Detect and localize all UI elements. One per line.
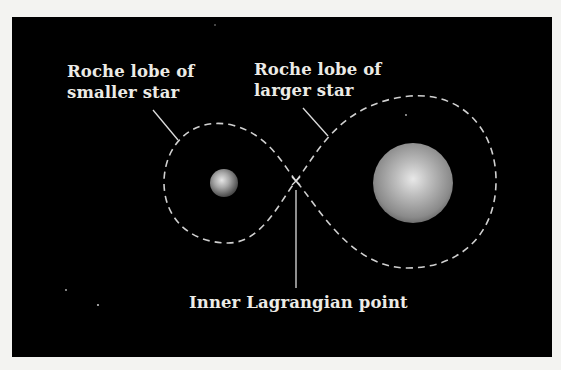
label-line-2: smaller star [67, 82, 194, 103]
label-line-1: Roche lobe of [67, 61, 194, 82]
larger-star [373, 143, 453, 223]
label-line-1: Roche lobe of [254, 59, 381, 80]
label-text: Inner Lagrangian point [189, 292, 408, 313]
label-inner-lagrangian-point: Inner Lagrangian point [189, 292, 408, 313]
inner-lagrangian-point-marker [292, 177, 300, 185]
roche-lobe-diagram [0, 0, 561, 370]
leader-line-larger-lobe [303, 108, 328, 136]
leader-line-smaller-lobe [153, 110, 178, 140]
leader-lines [153, 108, 328, 288]
label-roche-lobe-larger-star: Roche lobe of larger star [254, 59, 381, 101]
label-line-2: larger star [254, 80, 381, 101]
label-roche-lobe-smaller-star: Roche lobe of smaller star [67, 61, 194, 103]
smaller-star [210, 169, 238, 197]
